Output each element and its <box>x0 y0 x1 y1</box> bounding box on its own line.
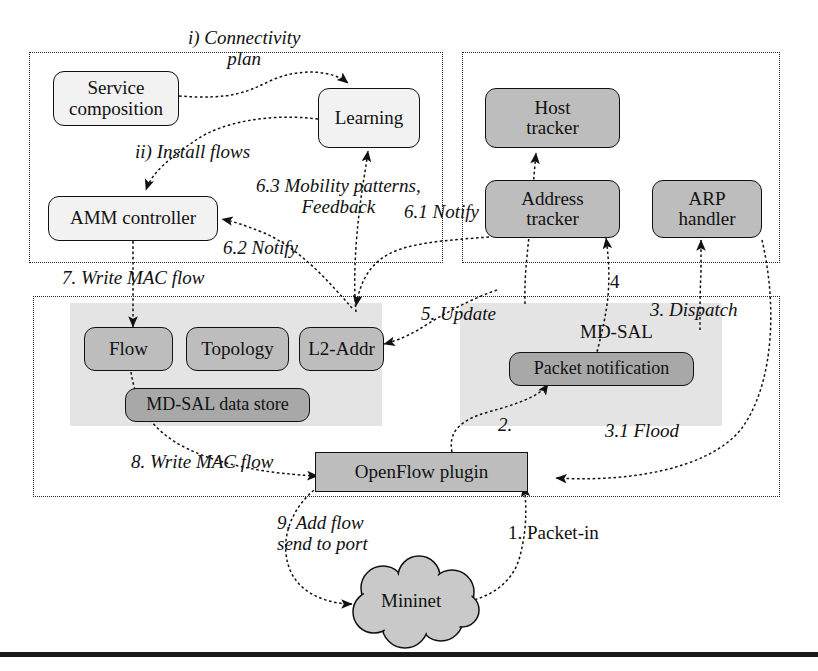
mininet-cloud-shape[interactable] <box>0 0 818 671</box>
edge-label-6-1-notify: 6.1 Notify <box>404 202 479 223</box>
edge-label-6-2-notify: 6.2 Notify <box>223 238 298 259</box>
edge-label-6-3-mobility-patterns: 6.3 Mobility patterns, Feedback <box>256 176 421 218</box>
diagram-canvas: Servicecomposition Learning AMM controll… <box>0 0 818 671</box>
edge-label-3-1-flood: 3.1 Flood <box>605 421 679 442</box>
edge-label-9-add-flow: 9. Add flow send to port <box>277 513 368 555</box>
mininet-label: Mininet <box>381 591 441 612</box>
edge-label-7-write-mac-flow: 7. Write MAC flow <box>62 268 205 289</box>
edge-label-3-dispatch: 3. Dispatch <box>650 300 738 321</box>
edge-label-ii-install-flows: ii) Install flows <box>135 142 250 163</box>
edge-label-i-connectivity-plan: i) Connectivity plan <box>188 28 300 70</box>
edge-label-8-write-mac-flow: 8. Write MAC flow <box>131 452 274 473</box>
edge-label-2: 2. <box>498 415 512 436</box>
edge-label-1-packet-in: 1. Packet-in <box>508 523 599 544</box>
edge-label-5-update: 5. Update <box>421 304 496 325</box>
edge-label-4: 4 <box>610 272 620 293</box>
bottom-rule <box>0 652 818 657</box>
